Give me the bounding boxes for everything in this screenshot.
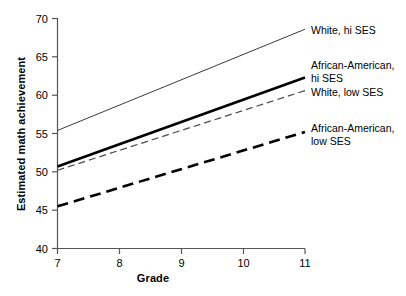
y-tick-label: 70	[36, 13, 48, 25]
series-line-african-american-hi-ses-visible	[58, 78, 306, 167]
x-tick-label: 7	[54, 257, 60, 269]
series-label-line: African-American,	[311, 122, 394, 135]
series-line-white-low-ses	[58, 91, 306, 171]
x-axis-ticks	[58, 249, 306, 255]
x-tick-label: 9	[178, 257, 184, 269]
y-tick-label: 55	[36, 128, 48, 140]
series-label-african-american-hi-ses: African-American, hi SES	[311, 59, 394, 84]
chart-canvas: 70 65 60 55 50 45 40 7 8 9 10 11	[0, 0, 406, 296]
series-label-white-low-ses: White, low SES	[311, 86, 383, 99]
series-label-line: hi SES	[311, 72, 394, 85]
series-label-african-american-low-ses: African-American, low SES	[311, 122, 394, 147]
y-tick-label: 60	[36, 89, 48, 101]
y-tick-label: 45	[36, 204, 48, 216]
x-tick-label: 11	[299, 257, 310, 269]
x-tick-label: 10	[237, 257, 249, 269]
x-tick-label: 8	[116, 257, 122, 269]
series-label-line: low SES	[311, 135, 394, 148]
math-achievement-line-chart: 70 65 60 55 50 45 40 7 8 9 10 11	[0, 0, 406, 296]
y-tick-labels: 70 65 60 55 50 45 40	[36, 13, 48, 255]
x-axis-title: Grade	[0, 272, 306, 284]
series-line-white-hi-ses	[58, 29, 306, 130]
series-line-african-american-low-ses	[58, 132, 306, 206]
y-axis-ticks	[52, 19, 58, 249]
y-tick-label: 40	[36, 243, 48, 255]
y-axis-title: Estimated math achievement	[15, 29, 27, 239]
series-label-line: African-American,	[311, 59, 394, 72]
y-tick-label: 50	[36, 166, 48, 178]
series-label-white-hi-ses: White, hi SES	[311, 24, 376, 37]
x-tick-labels: 7 8 9 10 11	[54, 257, 310, 269]
y-tick-label: 65	[36, 51, 48, 63]
